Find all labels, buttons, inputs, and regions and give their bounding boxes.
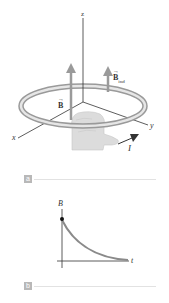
decay-graph (57, 209, 129, 268)
initial-value-dot (60, 217, 64, 221)
x-axis-label: x (12, 134, 16, 142)
b-field-text: B (58, 101, 63, 110)
panel-a-divider (34, 179, 156, 180)
b-field-label: → B (58, 102, 63, 110)
panel-b-badge: b (24, 282, 32, 290)
b-field-arrow (66, 63, 76, 120)
graph-x-label: t (131, 257, 133, 265)
y-axis-label: y (150, 122, 154, 130)
z-axis-label: z (81, 11, 84, 18)
panel-b-divider (34, 286, 156, 287)
graph-y-label: B (58, 200, 63, 208)
current-label: I (128, 144, 131, 153)
vector-mark: → (58, 96, 64, 102)
b-induced-subscript: ind (118, 79, 124, 84)
vector-mark: → (113, 68, 119, 74)
hand-icon (72, 112, 119, 150)
panel-a-badge: a (24, 175, 32, 183)
decay-curve (62, 220, 128, 260)
b-induced-label: → Bind (113, 74, 125, 84)
panel-a-diagram (0, 0, 169, 303)
